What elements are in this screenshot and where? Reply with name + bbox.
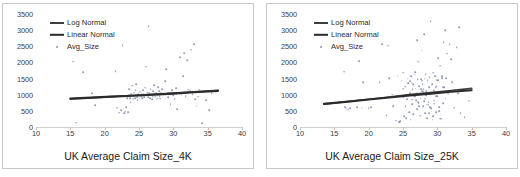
- x-tick-label: 40: [238, 129, 246, 138]
- line-swatch-icon: [50, 30, 64, 40]
- x-tick-label: 10: [32, 129, 40, 138]
- y-tick-label: 2500: [281, 42, 297, 51]
- y-tick-label: 1500: [281, 74, 297, 83]
- legend-right: Log Normal Linear Normal Avg_Size: [314, 18, 379, 54]
- y-tick-label: 2500: [17, 42, 33, 51]
- x-tick-label: 30: [433, 129, 441, 138]
- legend-label: Linear Normal: [331, 31, 379, 39]
- x-axis-title-right: UK Average Claim Size_25K: [267, 150, 517, 162]
- y-tick-label: 1000: [281, 90, 297, 99]
- x-tick-label: 10: [296, 129, 304, 138]
- x-tick-label: 40: [502, 129, 510, 138]
- y-tick-label: 3500: [17, 10, 33, 19]
- y-axis-tick-labels-left: 0500100015002000250030003500: [6, 14, 33, 127]
- legend-left: Log Normal Linear Normal Avg_Size: [50, 18, 115, 54]
- line-swatch-icon: [50, 18, 64, 28]
- legend-item-linear-normal: Linear Normal: [50, 30, 115, 40]
- legend-label: Avg_Size: [67, 43, 99, 51]
- legend-label: Log Normal: [331, 19, 370, 27]
- x-tick-label: 20: [365, 129, 373, 138]
- y-tick-label: 1000: [17, 90, 33, 99]
- linear-normal-trend-line: [70, 91, 218, 99]
- x-tick-label: 25: [135, 129, 143, 138]
- y-tick-label: 3000: [281, 26, 297, 35]
- plot-wrapper-right: 0500100015002000250030003500 10152025303…: [267, 4, 517, 168]
- legend-label: Avg_Size: [331, 43, 363, 51]
- y-tick-label: 2000: [281, 58, 297, 67]
- x-tick-label: 25: [399, 129, 407, 138]
- y-tick-label: 2000: [17, 58, 33, 67]
- x-axis-tick-labels-right: 10152025303540: [300, 129, 506, 141]
- x-tick-label: 15: [66, 129, 74, 138]
- plot-wrapper-left: 0500100015002000250030003500 10152025303…: [3, 4, 253, 168]
- legend-item-avg-size: Avg_Size: [50, 42, 115, 52]
- legend-item-avg-size: Avg_Size: [314, 42, 379, 52]
- line-swatch-icon: [314, 30, 328, 40]
- x-tick-label: 35: [468, 129, 476, 138]
- point-swatch-icon: [50, 42, 64, 52]
- x-axis-tick-labels-left: 10152025303540: [36, 129, 242, 141]
- x-tick-label: 15: [330, 129, 338, 138]
- x-axis-title-left: UK Average Claim Size_4K: [3, 150, 253, 162]
- chart-panel-right: 0500100015002000250030003500 10152025303…: [266, 3, 518, 169]
- legend-item-linear-normal: Linear Normal: [314, 30, 379, 40]
- point-swatch-icon: [314, 42, 328, 52]
- chart-panel-left: 0500100015002000250030003500 10152025303…: [2, 3, 254, 169]
- y-axis-tick-labels-right: 0500100015002000250030003500: [270, 14, 297, 127]
- y-tick-label: 3000: [17, 26, 33, 35]
- line-swatch-icon: [314, 18, 328, 28]
- y-tick-label: 3500: [281, 10, 297, 19]
- legend-item-log-normal: Log Normal: [314, 18, 379, 28]
- x-tick-label: 20: [101, 129, 109, 138]
- legend-label: Linear Normal: [67, 31, 115, 39]
- legend-item-log-normal: Log Normal: [50, 18, 115, 28]
- y-tick-label: 1500: [17, 74, 33, 83]
- x-tick-label: 30: [169, 129, 177, 138]
- legend-label: Log Normal: [67, 19, 106, 27]
- figure-container: 0500100015002000250030003500 10152025303…: [0, 0, 520, 177]
- y-tick-label: 500: [285, 106, 297, 115]
- linear-normal-trend-line: [324, 90, 472, 104]
- y-tick-label: 500: [21, 106, 33, 115]
- x-tick-label: 35: [204, 129, 212, 138]
